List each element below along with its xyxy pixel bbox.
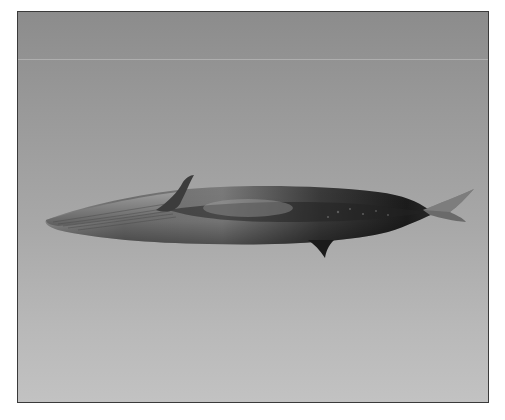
whale-dorsal-fin bbox=[308, 240, 334, 258]
image-frame bbox=[17, 11, 489, 403]
whale-illustration bbox=[18, 12, 489, 403]
